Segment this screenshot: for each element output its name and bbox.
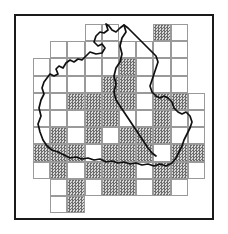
grid-cell-shaded: [102, 144, 119, 161]
grid-cell-empty: [102, 41, 119, 58]
grid-cell-empty: [33, 58, 50, 75]
grid-cell-shaded: [136, 144, 153, 161]
grid-cell-shaded: [50, 162, 67, 179]
grid-cell-shaded: [136, 127, 153, 144]
grid-cell-empty: [136, 41, 153, 58]
grid-cell-empty: [102, 127, 119, 144]
grid-cell-empty: [153, 144, 170, 161]
grid-cell-shaded: [67, 196, 84, 213]
grid-cell-shaded: [188, 144, 205, 161]
figure-frame: [14, 14, 214, 220]
grid-cell-empty: [188, 127, 205, 144]
grid-cell-empty: [50, 93, 67, 110]
grid-cell-empty: [136, 58, 153, 75]
grid-cell-empty: [67, 162, 84, 179]
grid-cell-empty: [85, 144, 102, 161]
grid-cell-shaded: [85, 93, 102, 110]
grid-cell-empty: [67, 110, 84, 127]
grid-cell-empty: [85, 41, 102, 58]
grid-cell-empty: [153, 76, 170, 93]
grid-cell-empty: [50, 196, 67, 213]
grid-cell-empty: [33, 110, 50, 127]
grid-cell-shaded: [85, 127, 102, 144]
grid-cell-empty: [136, 162, 153, 179]
grid-cell-empty: [171, 24, 188, 41]
grid-cell-shaded: [102, 93, 119, 110]
grid-cell-shaded: [119, 162, 136, 179]
grid-cell-shaded: [153, 110, 170, 127]
grid-cell-shaded: [171, 93, 188, 110]
grid-cell-shaded: [119, 144, 136, 161]
grid-cell-empty: [85, 24, 102, 41]
grid-cell-shaded: [119, 127, 136, 144]
grid-cell-shaded: [171, 162, 188, 179]
grid-cell-empty: [136, 76, 153, 93]
grid-cell-empty: [136, 93, 153, 110]
map-plot-area: [16, 16, 212, 218]
grid-cell-shaded: [119, 76, 136, 93]
grid-cell-empty: [136, 179, 153, 196]
grid-cell-empty: [50, 76, 67, 93]
grid-cell-shaded: [153, 24, 170, 41]
grid-cell-empty: [67, 41, 84, 58]
grid-cell-empty: [67, 58, 84, 75]
grid-cell-empty: [33, 93, 50, 110]
grid-cell-empty: [67, 127, 84, 144]
grid-cell-empty: [171, 41, 188, 58]
grid-cell-empty: [33, 127, 50, 144]
grid-cell-empty: [33, 162, 50, 179]
grid-cell-shaded: [102, 76, 119, 93]
grid-cell-empty: [188, 110, 205, 127]
distribution-map-figure: [0, 0, 228, 234]
grid-cell-empty: [102, 58, 119, 75]
grid-cell-empty: [171, 110, 188, 127]
grid-cell-shaded: [119, 93, 136, 110]
grid-cell-empty: [188, 93, 205, 110]
grid-cell-empty: [153, 41, 170, 58]
grid-cell-empty: [50, 41, 67, 58]
grid-cell-empty: [119, 110, 136, 127]
grid-cell-empty: [67, 76, 84, 93]
grid-cell-shaded: [153, 127, 170, 144]
grid-cell-shaded: [50, 127, 67, 144]
grid-cell-shaded: [67, 144, 84, 161]
grid-cell-shaded: [85, 110, 102, 127]
grid-cell-empty: [85, 58, 102, 75]
grid-cell-shaded: [153, 162, 170, 179]
grid-cell-shaded: [153, 179, 170, 196]
grid-cell-shaded: [50, 144, 67, 161]
grid-cell-empty: [50, 179, 67, 196]
grid-cell-empty: [85, 76, 102, 93]
grid-cell-empty: [50, 110, 67, 127]
grid-cell-shaded: [85, 162, 102, 179]
grid-cell-empty: [102, 24, 119, 41]
grid-cell-empty: [33, 76, 50, 93]
grid-cell-shaded: [67, 179, 84, 196]
grid-cell-empty: [171, 76, 188, 93]
grid-cell-shaded: [171, 144, 188, 161]
grid-cell-empty: [171, 58, 188, 75]
grid-cell-empty: [153, 58, 170, 75]
grid-cell-shaded: [102, 110, 119, 127]
grid-cell-empty: [85, 179, 102, 196]
grid-cell-shaded: [33, 144, 50, 161]
grid-cell-empty: [171, 127, 188, 144]
grid-cell-shaded: [102, 162, 119, 179]
grid-cell-shaded: [119, 179, 136, 196]
grid-cell-shaded: [119, 58, 136, 75]
grid-cell-shaded: [102, 179, 119, 196]
grid-cell-empty: [188, 162, 205, 179]
grid-cell-empty: [50, 58, 67, 75]
grid-cell-empty: [119, 41, 136, 58]
grid-cell-empty: [171, 179, 188, 196]
grid-cell-empty: [136, 110, 153, 127]
grid-cell-shaded: [67, 93, 84, 110]
grid-cell-shaded: [153, 93, 170, 110]
